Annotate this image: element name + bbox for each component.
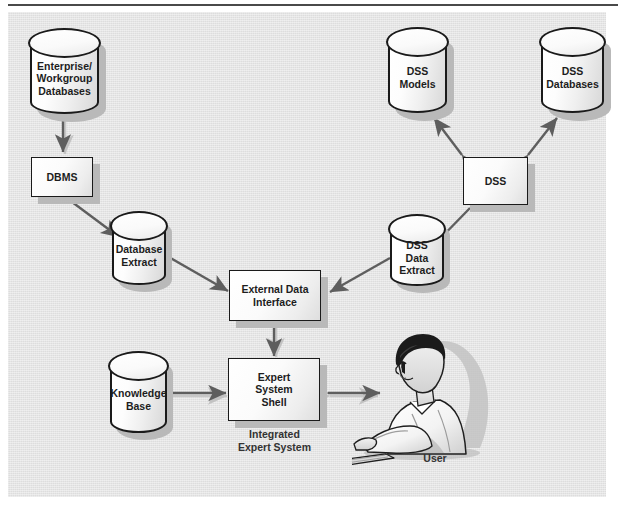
caption-user: User [390, 452, 480, 465]
node-label-line: Databases [546, 78, 599, 91]
node-label-line: Knowledge [110, 387, 166, 400]
node-label-line: DSS [485, 175, 507, 188]
node-enterprise-workgroup-databases: Enterprise/ Workgroup Databases [30, 30, 99, 114]
node-label-line: Enterprise/ [37, 60, 92, 73]
node-label-line: Interface [253, 296, 297, 309]
node-label-line: Database [116, 243, 163, 256]
node-external-data-interface: External Data Interface [229, 270, 321, 321]
node-label-line: Models [399, 78, 435, 91]
node-label-line: System [255, 383, 292, 396]
figure-canvas: Enterprise/ Workgroup Databases DBMS Dat… [0, 0, 626, 506]
node-label-line: External Data [241, 283, 308, 296]
node-label-line: DBMS [47, 171, 78, 184]
node-knowledge-base: Knowledge Base [110, 353, 167, 433]
node-label-line: Expert [258, 371, 291, 384]
node-label-line: Data [406, 252, 429, 265]
node-label-line: Databases [38, 85, 91, 98]
node-label-line: DSS [406, 239, 428, 252]
caption-line: User [390, 452, 480, 465]
node-database-extract: Database Extract [112, 213, 166, 285]
node-label-line: Base [126, 400, 151, 413]
node-expert-system-shell: Expert System Shell [228, 358, 320, 421]
node-label-line: Extract [121, 256, 157, 269]
node-dss-models: DSS Models [388, 29, 447, 113]
node-label-line: DSS [407, 65, 429, 78]
illustration-user [352, 322, 502, 472]
node-label-line: DSS [562, 65, 584, 78]
top-rule-divider [8, 4, 618, 6]
caption-line: Integrated [202, 428, 347, 441]
node-dss: DSS [463, 157, 528, 205]
caption-integrated-expert-system: Integrated Expert System [202, 428, 347, 453]
node-label-line: Shell [261, 396, 286, 409]
node-dbms: DBMS [31, 157, 93, 197]
caption-line: Expert System [202, 441, 347, 454]
node-label-line: Extract [399, 264, 435, 277]
node-label-line: Workgroup [37, 72, 93, 85]
node-dss-databases: DSS Databases [541, 29, 604, 113]
node-dss-data-extract: DSS Data Extract [390, 216, 444, 286]
